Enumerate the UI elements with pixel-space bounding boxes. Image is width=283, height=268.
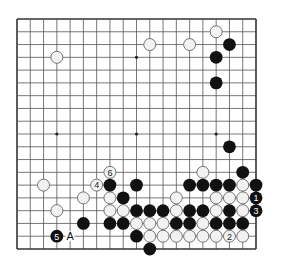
black-stone	[223, 179, 236, 192]
black-stone	[196, 204, 209, 217]
white-stone	[104, 192, 116, 204]
white-stone	[237, 230, 249, 242]
white-stone	[197, 217, 209, 229]
black-stone	[130, 204, 143, 217]
black-stone	[143, 204, 156, 217]
move-number-label: 3	[253, 206, 258, 216]
move-number-label: 4	[94, 180, 99, 190]
white-stone	[197, 230, 209, 242]
black-stone	[117, 217, 130, 230]
white-stone	[237, 205, 249, 217]
black-stone	[236, 166, 249, 179]
white-stone	[210, 230, 222, 242]
black-stone	[77, 217, 90, 230]
white-stone	[210, 205, 222, 217]
black-stone	[210, 76, 223, 89]
black-stone	[196, 179, 209, 192]
white-stone	[170, 192, 182, 204]
black-stone	[250, 179, 263, 192]
black-stone	[183, 204, 196, 217]
white-stone	[210, 192, 222, 204]
white-stone	[117, 205, 129, 217]
black-stone	[223, 38, 236, 51]
white-stone	[184, 39, 196, 51]
point-letter-label: A	[66, 230, 74, 242]
black-stone	[130, 179, 143, 192]
star-point	[135, 132, 138, 135]
black-stone	[143, 243, 156, 256]
black-stone	[210, 217, 223, 230]
black-stone	[210, 179, 223, 192]
black-stone	[117, 191, 130, 204]
move-number-label: 2	[227, 232, 232, 242]
black-stone	[223, 140, 236, 153]
white-stone	[223, 192, 235, 204]
white-stone	[131, 217, 143, 229]
star-point	[135, 56, 138, 59]
white-stone	[170, 205, 182, 217]
star-point	[215, 132, 218, 135]
black-stone	[183, 179, 196, 192]
star-point	[55, 132, 58, 135]
white-stone	[237, 192, 249, 204]
black-stone	[157, 204, 170, 217]
white-stone	[144, 230, 156, 242]
white-stone	[77, 192, 89, 204]
move-number-label: 1	[253, 193, 258, 203]
white-stone	[51, 51, 63, 63]
white-stone	[184, 230, 196, 242]
white-stone	[51, 205, 63, 217]
white-stone	[170, 230, 182, 242]
black-stone	[223, 217, 236, 230]
black-stone	[104, 179, 117, 192]
white-stone	[157, 217, 169, 229]
white-stone	[38, 179, 50, 191]
go-board: 123456A	[0, 0, 283, 268]
white-stone	[144, 39, 156, 51]
move-number-label: 5	[54, 232, 59, 242]
black-stone	[130, 230, 143, 243]
white-stone	[157, 230, 169, 242]
white-stone	[197, 166, 209, 178]
black-stone	[210, 51, 223, 64]
black-stone	[223, 204, 236, 217]
black-stone	[183, 217, 196, 230]
black-stone	[236, 217, 249, 230]
white-stone	[237, 179, 249, 191]
white-stone	[210, 26, 222, 38]
white-stone	[144, 217, 156, 229]
black-stone	[104, 217, 117, 230]
black-stone	[170, 217, 183, 230]
move-number-label: 6	[107, 168, 112, 178]
white-stone	[104, 205, 116, 217]
